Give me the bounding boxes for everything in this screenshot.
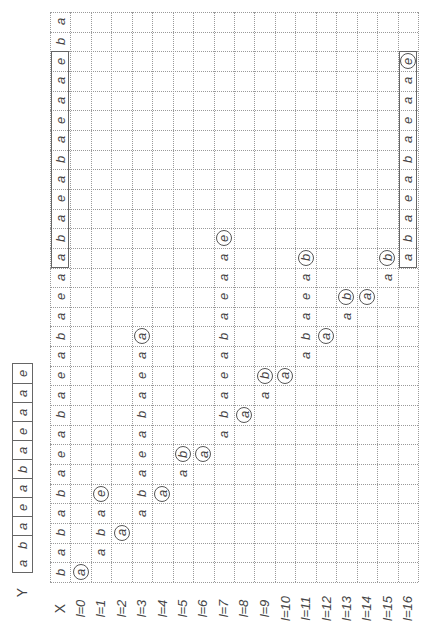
circle-marker — [298, 250, 314, 266]
symbol: a — [54, 431, 67, 438]
x-cell: a — [50, 268, 70, 288]
level-label: l=14 — [357, 588, 377, 628]
circle-marker — [359, 289, 375, 305]
l-cell: a — [357, 287, 377, 307]
l-cell: a — [91, 503, 111, 523]
l-cell: a — [132, 346, 152, 366]
symbol: a — [217, 352, 230, 359]
y-label: Y — [12, 582, 33, 602]
match-box — [399, 51, 417, 267]
x-cell: a — [50, 385, 70, 405]
grid-line — [316, 12, 317, 582]
x-cell: e — [50, 287, 70, 307]
symbol: b — [16, 465, 29, 472]
grid-line — [50, 51, 418, 52]
l-cell: e — [295, 287, 315, 307]
grid-line — [50, 91, 418, 92]
level-label: l=4 — [152, 588, 172, 628]
y-cell: a — [13, 383, 32, 402]
l-cell: b — [377, 248, 397, 268]
level-label: l=10 — [275, 588, 295, 628]
l-cell: e — [214, 228, 234, 248]
circle-marker — [73, 564, 89, 580]
symbol: e — [135, 451, 148, 458]
label-text: l=6 — [197, 599, 210, 617]
l-cell: e — [132, 444, 152, 464]
y-cell: e — [13, 364, 32, 383]
grid-line — [418, 12, 419, 582]
circle-marker — [175, 446, 191, 462]
y-cell: a — [13, 440, 32, 459]
l-cell: b — [254, 366, 274, 386]
circle-marker — [277, 368, 293, 384]
l-cell: e — [214, 366, 234, 386]
x-cell: b — [50, 562, 70, 582]
grid-line — [377, 12, 378, 582]
y-string-box: abaeabaeaae — [12, 363, 33, 573]
l-cell: b — [132, 405, 152, 425]
grid-line — [50, 71, 418, 72]
label-text: l=9 — [258, 599, 271, 617]
l-cell: a — [214, 268, 234, 288]
level-label: l=12 — [316, 588, 336, 628]
level-label: l=5 — [173, 588, 193, 628]
x-cell: b — [50, 523, 70, 543]
symbol: a — [217, 392, 230, 399]
label-text: l=13 — [340, 596, 353, 621]
symbol: a — [95, 510, 108, 517]
y-cell: a — [13, 402, 32, 421]
l-cell: a — [295, 268, 315, 288]
circle-marker — [134, 328, 150, 344]
circle-marker — [236, 407, 252, 423]
l-cell: a — [214, 346, 234, 366]
symbol: b — [217, 333, 230, 340]
label-text: l=11 — [299, 596, 312, 620]
grid-line — [50, 366, 418, 367]
symbol: a — [176, 470, 189, 477]
level-label: l=8 — [234, 588, 254, 628]
x-cell: a — [50, 503, 70, 523]
symbol: b — [299, 333, 312, 340]
symbol: a — [16, 389, 29, 396]
y-cell: a — [13, 554, 32, 573]
grid-line — [50, 464, 418, 465]
symbol: a — [16, 522, 29, 529]
l-cell: a — [275, 366, 295, 386]
symbol: e — [217, 372, 230, 379]
label-text: l=0 — [74, 599, 87, 617]
symbol: b — [54, 490, 67, 497]
l-cell: a — [132, 385, 152, 405]
grid-line — [50, 248, 418, 249]
symbol: e — [16, 370, 29, 377]
y-cell: a — [13, 516, 32, 535]
x-cell: a — [50, 346, 70, 366]
l-cell: a — [173, 464, 193, 484]
l-cell: a — [91, 543, 111, 563]
symbol: a — [54, 18, 67, 25]
symbol: e — [16, 503, 29, 510]
label-text: l=8 — [238, 599, 251, 617]
symbol: a — [135, 510, 148, 517]
symbol: a — [54, 274, 67, 281]
level-label: l=16 — [398, 588, 418, 628]
symbol: a — [299, 352, 312, 359]
y-cell: a — [13, 478, 32, 497]
label-text: l=5 — [176, 599, 189, 617]
x-cell: b — [50, 405, 70, 425]
l-cell: a — [234, 405, 254, 425]
x-cell: a — [50, 307, 70, 327]
circle-marker — [379, 250, 395, 266]
symbol: a — [299, 313, 312, 320]
symbol: a — [54, 313, 67, 320]
symbol: e — [54, 293, 67, 300]
level-label: l=13 — [336, 588, 356, 628]
grid-line — [111, 12, 112, 582]
x-match-box — [51, 51, 69, 267]
symbol: e — [135, 372, 148, 379]
symbol: b — [54, 38, 67, 45]
symbol: b — [95, 529, 108, 536]
l-cell: e — [132, 366, 152, 386]
symbol: a — [299, 274, 312, 281]
l-cell: a — [214, 307, 234, 327]
l-cell: b — [214, 326, 234, 346]
